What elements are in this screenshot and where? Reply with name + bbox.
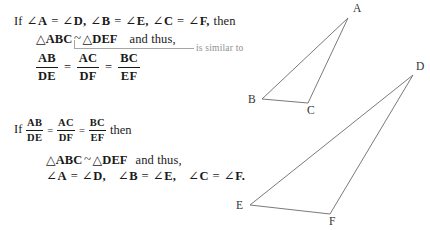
- vertex-label-a: A: [353, 2, 362, 14]
- triangle-def-vertex-labels: DEF: [236, 60, 424, 227]
- triangle-abc-shape: [262, 18, 348, 103]
- vertex-label-e: E: [236, 199, 243, 211]
- vertex-label-c: C: [307, 104, 315, 116]
- vertex-label-f: F: [329, 215, 335, 227]
- triangle-def-shape: [250, 75, 413, 214]
- figure-root: If∠A=∠D,∠B=∠E,∠C=∠F,then △ABC~△DEFand th…: [0, 0, 430, 230]
- vertex-label-b: B: [248, 93, 256, 105]
- triangle-diagrams: ABC DEF: [0, 0, 430, 230]
- vertex-label-d: D: [416, 60, 424, 72]
